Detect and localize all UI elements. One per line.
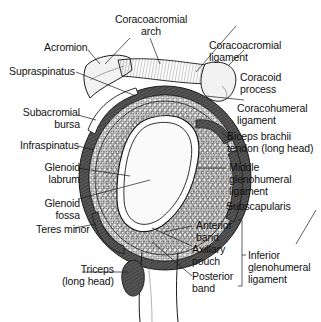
label-supraspinatus: Supraspinatus xyxy=(9,65,75,77)
label-subacromial-bursa: Subacromial bursa xyxy=(23,106,80,130)
label-posterior-band: Posterior band xyxy=(192,270,233,294)
label-glenoid-fossa: Glenoid fossa xyxy=(45,197,81,221)
label-anterior-band: Anterior band xyxy=(196,219,232,243)
label-coracohumeral-ligament: Coracohumeral ligament xyxy=(237,102,307,126)
label-infraspinatus: Infraspinatus xyxy=(20,139,79,151)
label-subscapularis: Subscapularis xyxy=(226,200,291,212)
label-teres-minor: Teres minor xyxy=(36,223,90,235)
coracoid-process-shape xyxy=(201,62,236,101)
label-coracoid-process: Coracoid process xyxy=(240,71,281,95)
coracoacromial-ligament-shape xyxy=(118,59,215,84)
label-coracoacromial-ligament: Coracoacromial ligament xyxy=(209,39,281,63)
label-acromion: Acromion xyxy=(44,41,88,53)
triceps-shape xyxy=(122,260,145,296)
label-glenoid-labrum: Glenoid labrum xyxy=(45,161,81,185)
label-middle-glenohumeral-ligament: Middle glenohumeral ligament xyxy=(229,161,291,197)
label-inferior-glenohumeral-ligament: Inferior glenohumeral ligament xyxy=(248,249,310,285)
label-triceps: Triceps (long head) xyxy=(62,263,114,287)
label-biceps-tendon: Biceps brachii tendon (long head) xyxy=(227,130,313,154)
label-coracoacromial-arch: Coracoacromial arch xyxy=(115,13,187,37)
label-axillary-pouch: Axillary pouch xyxy=(192,243,225,267)
